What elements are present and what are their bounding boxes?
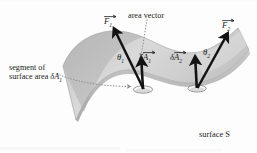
area-vector-2-arrow	[195, 58, 197, 88]
force-2-vector-symbol: F	[222, 21, 227, 31]
label-area-vector-2: δ A 2	[170, 53, 182, 64]
force-2-subscript: 2	[227, 25, 230, 31]
segment-label-line1: segment of	[9, 63, 45, 72]
segment-delta-a-symbol: δA	[50, 72, 59, 81]
label-area-vector-1: δ A 1	[139, 53, 151, 64]
label-segment-of-surface-area: segment of surface area δA1	[9, 63, 62, 83]
area-1-subscript: 1	[148, 58, 151, 64]
segment-label-line2: surface area δA1	[9, 72, 62, 83]
force-1-vector-symbol: F	[104, 17, 109, 27]
segment-subscript: 1	[59, 76, 62, 82]
label-force-vector-1: F 1	[104, 17, 112, 28]
area-2-subscript: 2	[179, 57, 182, 63]
force-1-subscript: 1	[109, 22, 112, 28]
theta-1-subscript: 1	[121, 57, 124, 63]
label-surface-s: surface S	[199, 130, 230, 139]
area-1-vector-symbol: A	[143, 53, 148, 63]
theta-2-subscript: 2	[207, 52, 210, 58]
label-area-vector: area vector	[128, 11, 164, 20]
label-angle-theta-2: θ2	[203, 48, 210, 59]
area-2-vector-symbol: A	[174, 53, 179, 63]
label-angle-theta-1: θ1	[117, 53, 124, 64]
label-force-vector-2: F 2	[222, 21, 230, 32]
